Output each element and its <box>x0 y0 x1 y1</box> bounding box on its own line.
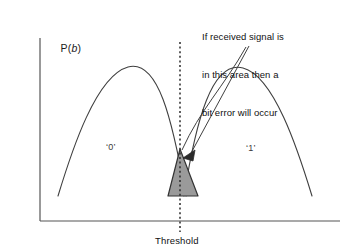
threshold-axis-label: Threshold <box>155 235 199 247</box>
symbol-label-zero: ‘0’ <box>106 142 116 154</box>
annotation-text-line-3: bit error will occur <box>202 107 284 120</box>
symbol-label-one: ‘1’ <box>246 143 256 155</box>
y-axis-label-suffix: ) <box>77 42 81 54</box>
annotation-text-line-2: in this area then a <box>202 69 284 82</box>
annotation-text-block: If received signal is in this area then … <box>202 6 284 145</box>
y-axis-label: P(b) <box>48 29 81 69</box>
figure-canvas: P(b) If received signal is in this area … <box>0 0 350 252</box>
annotation-text-line-1: If received signal is <box>202 31 284 44</box>
curve-symbol-zero <box>58 66 186 196</box>
y-axis-label-prefix: P( <box>60 42 71 54</box>
annotation-arrowhead-icon <box>183 150 195 161</box>
